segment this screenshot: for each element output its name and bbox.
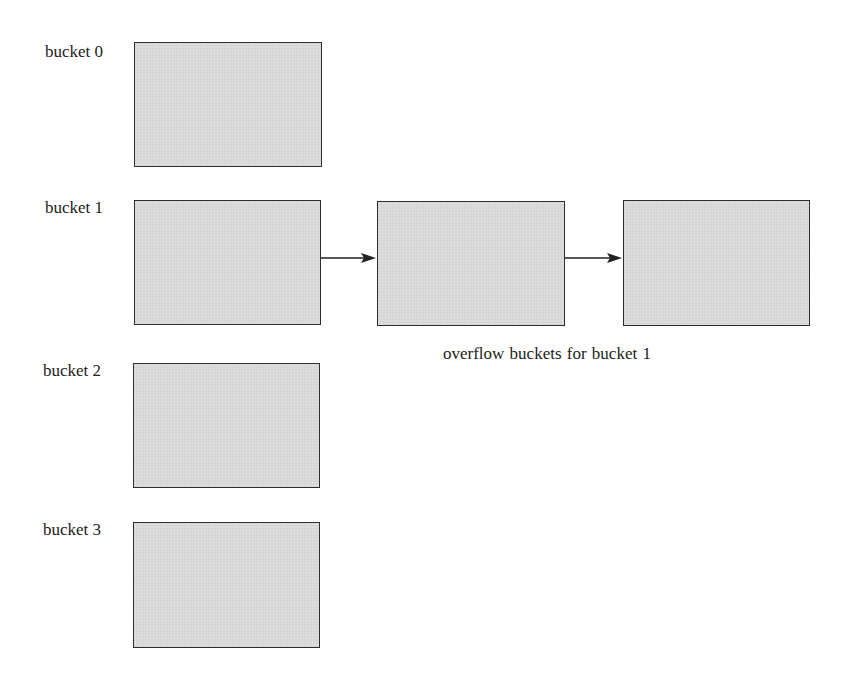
bucket-label-0: bucket 0 [45,42,103,62]
arrow-bucket1-to-overflow1 [321,253,376,263]
bucket-box-3 [133,522,320,648]
bucket-box-1 [134,200,321,325]
overflow-bucket-box-2 [623,200,810,326]
bucket-label-3: bucket 3 [43,520,101,540]
bucket-box-2 [133,363,320,488]
chain-arrows [0,0,847,680]
overflow-caption: overflow buckets for bucket 1 [443,344,651,364]
arrow-overflow1-to-overflow2 [565,253,622,263]
bucket-box-0 [134,42,322,167]
diagram-canvas: bucket 0 bucket 1 bucket 2 bucket 3 over… [0,0,847,680]
overflow-bucket-box-1 [377,201,565,326]
bucket-label-2: bucket 2 [43,361,101,381]
bucket-label-1: bucket 1 [45,198,103,218]
